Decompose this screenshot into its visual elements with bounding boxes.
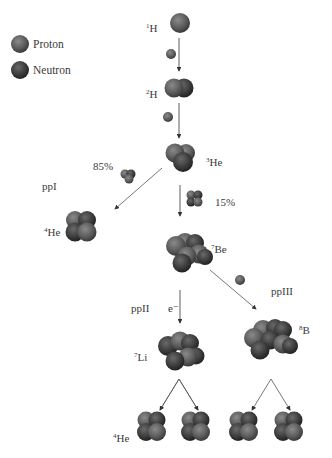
branch-label-ppII: ppII [131, 302, 149, 314]
beryllium-7-nucleus [166, 233, 213, 273]
helium-4-input [187, 191, 203, 207]
neutron-legend-icon [11, 61, 29, 79]
hydrogen-1-nucleus [170, 13, 190, 33]
proton-input-2 [163, 112, 173, 122]
helium-4-nucleus-ppI [66, 211, 97, 242]
label-b8: 8B [299, 322, 310, 336]
proton-input-1 [166, 49, 176, 59]
percent-ppII-ppIII: 15% [215, 196, 235, 208]
helium-4-product-1 [137, 412, 166, 442]
split-lines-li7 [160, 379, 198, 410]
legend-proton-label: Proton [33, 38, 64, 50]
split-lines-b8 [252, 379, 271, 410]
helium-3-input-ppI [121, 170, 136, 184]
legend-neutron-label: Neutron [33, 64, 71, 76]
helium-4-product-4 [274, 412, 303, 442]
branch-label-ppIII: ppIII [271, 285, 293, 297]
label-h1: 1H [146, 20, 157, 34]
label-be7: 7Be [211, 241, 227, 255]
label-he3: 3He [206, 154, 222, 168]
arrow-be7-to-b8 [210, 270, 256, 309]
percent-ppI: 85% [93, 160, 113, 172]
label-he4-final: 4He [113, 430, 129, 444]
boron-8-nucleus [244, 319, 298, 360]
helium-4-product-3 [229, 412, 258, 442]
lithium-7-nucleus [158, 332, 205, 371]
proton-legend-icon [11, 35, 29, 53]
proton-input-ppIII [235, 275, 245, 285]
helium-3-nucleus [166, 144, 196, 173]
label-h2: 2H [146, 86, 157, 100]
legend [11, 35, 29, 79]
electron-label: e⁻ [168, 302, 179, 314]
branch-label-ppI: ppI [42, 180, 57, 192]
label-he4-ppI: 4He [44, 224, 60, 238]
helium-4-product-2 [181, 412, 210, 442]
deuterium-nucleus [165, 79, 194, 98]
label-li7: 7Li [134, 349, 147, 363]
